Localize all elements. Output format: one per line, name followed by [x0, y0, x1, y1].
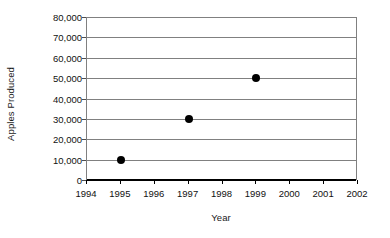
x-tick-mark: [255, 180, 256, 184]
x-tick-mark: [154, 180, 155, 184]
y-tick-label: 40,000: [36, 93, 82, 104]
plot-area: [86, 17, 357, 180]
x-tick-label: 2001: [313, 188, 334, 199]
gridline: [87, 99, 356, 100]
x-tick-mark: [222, 180, 223, 184]
data-point-marker: [252, 74, 260, 82]
x-tick-label: 1997: [177, 188, 198, 199]
data-point-marker: [185, 115, 193, 123]
gridline: [87, 37, 356, 38]
x-tick-mark: [289, 180, 290, 184]
chart-container: Apples Produced 80,00070,00060,00050,000…: [0, 0, 390, 238]
gridline: [87, 78, 356, 79]
gridline: [87, 139, 356, 140]
y-tick-label: 0: [36, 175, 82, 186]
x-tick-label: 1998: [211, 188, 232, 199]
data-point-marker: [117, 156, 125, 164]
x-tick-mark: [188, 180, 189, 184]
x-axis-ticks: [86, 180, 357, 185]
y-tick-label: 30,000: [36, 113, 82, 124]
x-tick-mark: [323, 180, 324, 184]
y-tick-label: 70,000: [36, 32, 82, 43]
gridline: [87, 58, 356, 59]
y-tick-label: 10,000: [36, 154, 82, 165]
gridline: [87, 119, 356, 120]
y-tick-label: 20,000: [36, 134, 82, 145]
y-tick-label: 80,000: [36, 12, 82, 23]
x-axis-tick-labels: 199419951996199719981999200020012002: [86, 188, 357, 202]
y-axis-title: Apples Produced: [5, 67, 16, 141]
x-tick-label: 2000: [279, 188, 300, 199]
x-tick-label: 2002: [346, 188, 367, 199]
x-tick-label: 1994: [75, 188, 96, 199]
x-tick-mark: [86, 180, 87, 184]
x-axis-title: Year: [211, 212, 231, 223]
gridline: [87, 160, 356, 161]
x-tick-mark: [357, 180, 358, 184]
gridline: [87, 17, 356, 18]
x-tick-label: 1996: [143, 188, 164, 199]
y-axis-tick-labels: 80,00070,00060,00050,00040,00030,00020,0…: [34, 17, 82, 180]
x-tick-mark: [120, 180, 121, 184]
x-tick-label: 1999: [245, 188, 266, 199]
x-tick-label: 1995: [109, 188, 130, 199]
y-tick-label: 50,000: [36, 73, 82, 84]
y-tick-label: 60,000: [36, 52, 82, 63]
